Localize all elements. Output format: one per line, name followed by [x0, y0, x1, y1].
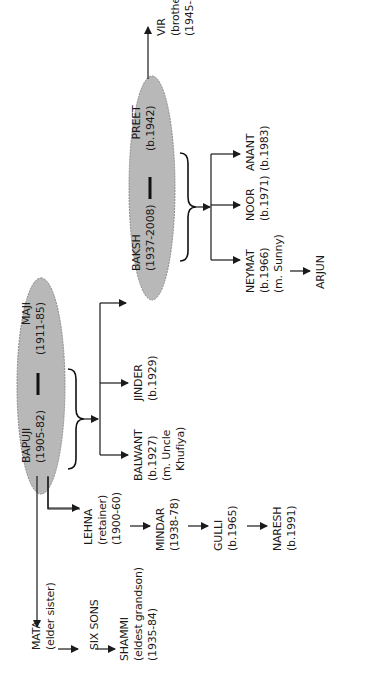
- person-note: (retainer): [96, 492, 110, 545]
- person-six-sons: SIX SONS: [88, 599, 102, 650]
- person-dates: (1935-84): [146, 567, 160, 661]
- person-balwant: BALWANT (b.1927) (m. Uncle Khufiya): [132, 427, 188, 481]
- person-note: (m. Sunny): [272, 234, 286, 293]
- person-neymat: NEYMAT (b.1966) (m. Sunny): [244, 234, 286, 293]
- person-dates: (1937-2008): [144, 205, 158, 271]
- person-name: MATA: [30, 583, 44, 651]
- person-name: GULLI: [212, 506, 226, 551]
- person-dates: (b.1942): [144, 106, 158, 151]
- person-dates: (b.1983): [258, 126, 272, 171]
- person-name: MINDAR: [154, 498, 168, 551]
- person-name: PREET: [130, 106, 144, 151]
- person-name: MAJI: [20, 302, 34, 355]
- person-bapuji: BAPUJI (1905-82): [20, 410, 48, 463]
- person-note: (m. Uncle: [160, 427, 174, 481]
- person-anant: ANANT (b.1983): [244, 126, 272, 171]
- person-jinder: JINDER (b.1929): [132, 356, 160, 401]
- person-name: SIX SONS: [88, 599, 102, 650]
- family-tree-diagram: BAPUJI (1905-82) MAJI (1911-85) BAKSH (1…: [0, 0, 369, 691]
- person-name: ANANT: [244, 126, 258, 171]
- person-name: NOOR: [244, 176, 258, 221]
- person-vir: VIR (brother) (1945-81): [155, 0, 197, 36]
- person-dates: (1938-78): [168, 498, 182, 551]
- person-baksh: BAKSH (1937-2008): [130, 205, 158, 271]
- person-gulli: GULLI (b.1965): [212, 506, 240, 551]
- elders-children-brace: [68, 369, 84, 469]
- person-dates: (b.1965): [226, 506, 240, 551]
- person-name: SHAMMI: [118, 567, 132, 661]
- person-note: (elder sister): [44, 583, 58, 651]
- person-name: NEYMAT: [244, 234, 258, 293]
- person-dates: (1911-85): [34, 302, 48, 355]
- person-dates: (b.1927): [146, 427, 160, 481]
- person-dates: (b.1966): [258, 234, 272, 293]
- person-name: LEHNA: [82, 492, 96, 545]
- person-preet: PREET (b.1942): [130, 106, 158, 151]
- person-dates: (1900-60): [110, 492, 124, 545]
- person-name: NARESH: [271, 506, 285, 551]
- person-arjun: ARJUN: [314, 255, 328, 289]
- person-dates: (b.1929): [146, 356, 160, 401]
- person-dates: (1945-81): [183, 0, 197, 36]
- person-noor: NOOR (b.1971): [244, 176, 272, 221]
- person-mindar: MINDAR (1938-78): [154, 498, 182, 551]
- person-dates: (b.1991): [285, 506, 299, 551]
- person-name: BAPUJI: [20, 410, 34, 463]
- person-name: VIR: [155, 0, 169, 36]
- person-mata: MATA (elder sister): [30, 583, 58, 651]
- person-naresh: NARESH (b.1991): [271, 506, 299, 551]
- person-maji: MAJI (1911-85): [20, 302, 48, 355]
- person-note: (brother): [169, 0, 183, 36]
- person-dates: (1905-82): [34, 410, 48, 463]
- person-name: JINDER: [132, 356, 146, 401]
- person-note: (eldest grandson): [132, 567, 146, 661]
- person-name: ARJUN: [314, 255, 328, 289]
- person-note: Khufiya): [174, 427, 188, 481]
- parents-children-brace: [180, 153, 196, 261]
- person-shammi: SHAMMI (eldest grandson) (1935-84): [118, 567, 160, 661]
- person-lehna: LEHNA (retainer) (1900-60): [82, 492, 124, 545]
- person-name: BALWANT: [132, 427, 146, 481]
- person-name: BAKSH: [130, 205, 144, 271]
- person-dates: (b.1971): [258, 176, 272, 221]
